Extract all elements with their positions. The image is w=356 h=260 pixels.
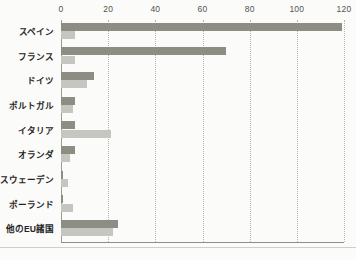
category-label: ポーランド bbox=[0, 200, 54, 210]
bar-group bbox=[61, 45, 344, 70]
bar-group bbox=[61, 20, 344, 45]
category-label: スペイン bbox=[0, 27, 54, 37]
gridline-120 bbox=[344, 20, 346, 242]
bar-series-2 bbox=[61, 105, 73, 113]
bar-series-2 bbox=[61, 80, 87, 88]
bar-group bbox=[61, 69, 344, 94]
bar-chart: 020406080100120 スペインフランスドイツポルトガルイタリアオランダ… bbox=[0, 0, 356, 260]
bar-series-1 bbox=[61, 47, 226, 55]
bar-series-1 bbox=[61, 171, 63, 179]
bar-series-2 bbox=[61, 56, 75, 64]
x-tick-label-60: 60 bbox=[198, 4, 208, 14]
category-label: ドイツ bbox=[0, 76, 54, 86]
bar-series-1 bbox=[61, 195, 63, 203]
bar-series-1 bbox=[61, 146, 75, 154]
bar-series-2 bbox=[61, 204, 73, 212]
bar-series-2 bbox=[61, 154, 70, 162]
bar-rows bbox=[61, 20, 344, 242]
bar-group bbox=[61, 217, 344, 242]
bar-group bbox=[61, 143, 344, 168]
bar-group bbox=[61, 94, 344, 119]
x-tick-label-0: 0 bbox=[59, 4, 64, 14]
x-tick-label-120: 120 bbox=[337, 4, 352, 14]
bar-series-2 bbox=[61, 31, 75, 39]
bar-series-2 bbox=[61, 130, 111, 138]
category-label: ポルトガル bbox=[0, 101, 54, 111]
figure-bottom-rule bbox=[0, 247, 356, 248]
plot-area bbox=[61, 20, 344, 242]
category-label: 他のEU諸国 bbox=[0, 224, 54, 234]
x-tick-label-80: 80 bbox=[245, 4, 255, 14]
axis-baseline bbox=[61, 242, 344, 243]
x-tick-label-20: 20 bbox=[103, 4, 113, 14]
bar-series-1 bbox=[61, 220, 118, 228]
bar-series-1 bbox=[61, 97, 75, 105]
bar-series-1 bbox=[61, 72, 94, 80]
bar-group bbox=[61, 193, 344, 218]
x-axis-tick-labels: 020406080100120 bbox=[0, 0, 356, 20]
category-label: イタリア bbox=[0, 126, 54, 136]
category-label: オランダ bbox=[0, 150, 54, 160]
category-label: スウェーデン bbox=[0, 175, 54, 185]
bar-group bbox=[61, 119, 344, 144]
category-label: フランス bbox=[0, 52, 54, 62]
bar-series-2 bbox=[61, 179, 68, 187]
bar-series-1 bbox=[61, 23, 342, 31]
category-axis-labels: スペインフランスドイツポルトガルイタリアオランダスウェーデンポーランド他のEU諸… bbox=[0, 20, 58, 242]
bar-group bbox=[61, 168, 344, 193]
x-tick-label-40: 40 bbox=[150, 4, 160, 14]
bar-series-2 bbox=[61, 228, 113, 236]
bar-series-1 bbox=[61, 121, 75, 129]
x-tick-label-100: 100 bbox=[289, 4, 304, 14]
